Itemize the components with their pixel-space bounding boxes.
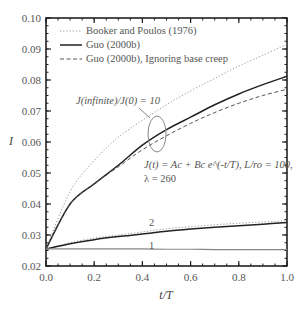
chart-svg: 0.00.20.40.60.81.00.020.030.040.050.060.… (0, 0, 305, 312)
legend-label: Guo (2000b) (86, 39, 140, 51)
y-tick-label: 0.07 (22, 105, 42, 117)
y-tick-label: 0.09 (22, 43, 42, 55)
x-tick-label: 0.6 (184, 271, 198, 283)
legend-label: Booker and Poulos (1976) (86, 25, 197, 37)
ratio-annotation: J(infinite)/J(0) = 10 (76, 95, 161, 107)
highlight-ellipse (148, 116, 166, 152)
x-tick-label: 1.0 (280, 271, 294, 283)
legend: Booker and Poulos (1976)Guo (2000b)Guo (… (60, 25, 228, 65)
y-tick-label: 0.05 (22, 167, 42, 179)
y-tick-label: 0.08 (22, 74, 42, 86)
curve-label-1: 1 (149, 240, 154, 251)
y-tick-label: 0.04 (22, 198, 42, 210)
series-line (46, 44, 287, 249)
series-line (46, 223, 287, 249)
y-tick-label: 0.02 (22, 260, 41, 272)
x-tick-label: 0.4 (136, 271, 150, 283)
series-line (46, 249, 287, 250)
annotation-arrow (139, 108, 150, 118)
y-tick-label: 0.03 (22, 229, 42, 241)
y-tick-label: 0.06 (22, 136, 42, 148)
y-tick-label: 0.10 (22, 12, 42, 24)
x-tick-label: 0.2 (87, 271, 101, 283)
formula-line-2: λ = 260 (144, 173, 176, 184)
x-tick-label: 0.8 (232, 271, 246, 283)
legend-label: Guo (2000b), Ignoring base creep (86, 53, 228, 65)
x-axis-label: t/T (159, 288, 174, 302)
curve-label-2: 2 (149, 217, 154, 228)
formula-line-1: J(t) = Ac + Bc e^(-t/T), L/ro = 100, (144, 159, 293, 171)
data-series (46, 44, 287, 249)
x-tick-label: 0.0 (39, 271, 53, 283)
y-axis-label: I (8, 134, 14, 148)
